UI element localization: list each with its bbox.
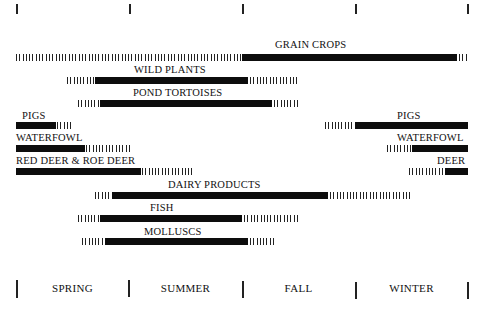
top-tick-fall-start	[242, 4, 244, 14]
top-tick-summer-start	[129, 4, 131, 14]
row-label-wild-plants: WILD PLANTS	[134, 64, 206, 76]
pigs-left-hatch-after	[57, 122, 71, 129]
red-roe-deer-solid-bar	[16, 168, 141, 175]
molluscs-hatch-after	[250, 238, 275, 245]
molluscs-solid-bar	[105, 238, 248, 245]
grain-crops-solid-bar	[242, 54, 457, 61]
waterfowl-left-solid-bar	[16, 145, 85, 152]
pond-tortoises-hatch-before	[78, 100, 99, 107]
season-label-summer: SUMMER	[129, 282, 242, 294]
row-label-grain-crops: GRAIN CROPS	[275, 39, 346, 51]
season-label-spring: SPRING	[16, 282, 129, 294]
row-label-pond-tortoises: POND TORTOISES	[133, 87, 222, 99]
row-label-pigs-right: PIGS	[397, 110, 421, 122]
pigs-right-solid-bar	[355, 122, 468, 129]
pond-tortoises-hatch-after	[274, 100, 298, 107]
wild-plants-solid-bar	[95, 77, 248, 84]
row-label-waterfowl-left: WATERFOWL	[16, 132, 83, 144]
waterfowl-right-solid-bar	[412, 145, 468, 152]
row-label-red-roe-deer: RED DEER & ROE DEER	[16, 155, 135, 167]
wild-plants-hatch-before	[67, 77, 94, 84]
fish-solid-bar	[100, 215, 242, 222]
fish-hatch-after	[244, 215, 298, 222]
dairy-hatch-before	[95, 192, 111, 199]
fish-hatch-before	[78, 215, 99, 222]
waterfowl-left-hatch-after	[86, 145, 131, 152]
grain-crops-hatch-after	[459, 54, 467, 61]
pond-tortoises-solid-bar	[100, 100, 272, 107]
top-tick-end	[467, 4, 469, 14]
wild-plants-hatch-after	[250, 77, 298, 84]
grain-crops-hatch-before	[16, 54, 242, 61]
deer-right-hatch-before	[409, 168, 444, 175]
row-label-dairy-products: DAIRY PRODUCTS	[168, 179, 261, 191]
dairy-solid-bar	[112, 192, 328, 199]
top-tick-winter-start	[355, 4, 357, 14]
row-label-molluscs: MOLLUSCS	[144, 226, 202, 238]
molluscs-hatch-before	[82, 238, 104, 245]
season-label-winter: WINTER	[355, 282, 468, 294]
row-label-deer-right: DEER	[437, 155, 465, 167]
row-label-pigs-left: PIGS	[22, 110, 46, 122]
top-tick-spring-start	[16, 4, 18, 14]
row-label-fish: FISH	[150, 202, 174, 214]
season-label-fall: FALL	[242, 282, 355, 294]
pigs-right-hatch-before	[325, 122, 354, 129]
dairy-hatch-after	[330, 192, 410, 199]
pigs-left-solid-bar	[16, 122, 56, 129]
row-label-waterfowl-right: WATERFOWL	[397, 132, 464, 144]
red-roe-deer-hatch-after	[142, 168, 193, 175]
waterfowl-right-hatch-before	[387, 145, 411, 152]
deer-right-solid-bar	[445, 168, 468, 175]
